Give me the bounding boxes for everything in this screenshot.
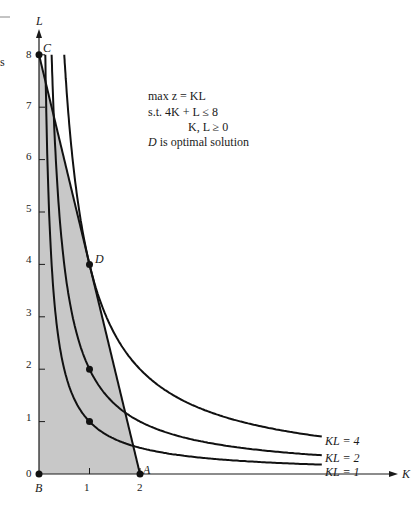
point-label-a: A <box>143 463 150 478</box>
point-marker-d <box>86 261 93 268</box>
y-axis-arrow-icon <box>36 29 42 38</box>
point-marker-b <box>36 471 43 478</box>
page-edge-text-fragment: s <box>0 55 5 70</box>
y-tick-8: 8 <box>26 48 32 60</box>
optimal-note: D is optimal solution <box>148 135 249 150</box>
y-tick-5: 5 <box>26 202 32 214</box>
curve-label-kl1: KL = 1 <box>325 465 360 480</box>
nonneg-text: K, L ≥ 0 <box>188 120 228 135</box>
y-tick-2: 2 <box>26 358 32 370</box>
curve-label-kl4: KL = 4 <box>325 434 360 449</box>
point-label-d: D <box>95 252 104 267</box>
y-tick-7: 7 <box>26 99 32 111</box>
point-marker <box>86 418 93 425</box>
y-tick-4: 4 <box>26 253 32 265</box>
y-axis-label: L <box>36 14 43 29</box>
x-axis-label: K <box>402 467 410 482</box>
y-tick-6: 6 <box>26 150 32 162</box>
curve-label-kl2: KL = 2 <box>325 451 360 466</box>
point-label-c: C <box>43 41 51 56</box>
objective-text: max z = KL <box>148 89 206 104</box>
point-marker-c <box>36 51 43 58</box>
y-tick-1: 1 <box>26 411 32 423</box>
y-tick-0: 0 <box>26 467 32 479</box>
x-tick-1: 1 <box>84 481 90 493</box>
y-tick-3: 3 <box>26 306 32 318</box>
point-marker <box>86 366 93 373</box>
x-axis-arrow-icon <box>389 471 398 477</box>
constraint-text: s.t. 4K + L ≤ 8 <box>148 105 218 120</box>
point-label-b: B <box>35 481 42 496</box>
x-tick-2: 2 <box>137 481 143 493</box>
